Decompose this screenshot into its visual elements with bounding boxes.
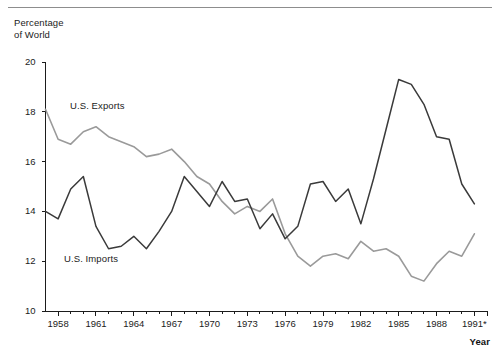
series-label-exports: U.S. Exports xyxy=(70,100,125,111)
y-tick-label: 14 xyxy=(18,205,36,216)
series-label-imports: U.S. Imports xyxy=(64,253,118,264)
header-divider xyxy=(8,7,492,8)
y-tick-label: 16 xyxy=(18,156,36,167)
y-tick-label: 18 xyxy=(18,106,36,117)
chart-plot-area xyxy=(0,0,499,360)
x-tick-label: 1979 xyxy=(312,318,333,329)
y-tick-label: 12 xyxy=(18,255,36,266)
chart-figure: Percentage of World Year U.S. Exports U.… xyxy=(0,0,499,360)
x-tick-label: 1961 xyxy=(85,318,106,329)
x-tick-label: 1985 xyxy=(388,318,409,329)
y-tick-label: 10 xyxy=(18,305,36,316)
x-tick-label: 1958 xyxy=(48,318,69,329)
x-tick-label: 1991* xyxy=(462,318,487,329)
x-tick-label: 1964 xyxy=(123,318,144,329)
x-axis-title: Year xyxy=(470,336,490,347)
x-tick-label: 1967 xyxy=(161,318,182,329)
y-tick-label: 20 xyxy=(18,56,36,67)
x-tick-label: 1976 xyxy=(275,318,296,329)
x-tick-label: 1973 xyxy=(237,318,258,329)
x-tick-label: 1982 xyxy=(350,318,371,329)
x-tick-label: 1988 xyxy=(426,318,447,329)
x-tick-label: 1970 xyxy=(199,318,220,329)
y-axis-title: Percentage of World xyxy=(14,17,64,40)
